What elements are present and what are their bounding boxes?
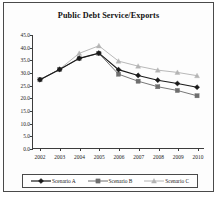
x-axis-tick-label: 2004 <box>74 154 85 160</box>
x-axis-tick <box>99 148 100 151</box>
plot-area: 0.05.010.015.020.025.030.035.040.045.020… <box>32 35 204 149</box>
x-axis-tick-label: 2008 <box>153 154 164 160</box>
y-axis-tick <box>30 73 33 74</box>
chart-legend: Scenario AScenario BScenario C <box>22 174 198 188</box>
y-axis-tick <box>30 136 33 137</box>
y-axis-tick-label: 20.0 <box>21 95 30 101</box>
y-axis-tick <box>30 48 33 49</box>
legend-marker-icon <box>88 177 108 185</box>
y-axis-tick-label: 15.0 <box>21 108 30 114</box>
x-axis-tick-label: 2002 <box>35 154 46 160</box>
data-point-scenario-b <box>156 85 160 89</box>
data-point-scenario-a <box>155 78 160 83</box>
legend-item-scenario-b[interactable]: Scenario B <box>88 177 133 185</box>
y-axis-tick-label: 0.0 <box>23 146 30 152</box>
x-axis-tick-label: 2010 <box>193 154 204 160</box>
x-axis-tick <box>119 148 120 151</box>
legend-item-scenario-c[interactable]: Scenario C <box>144 177 189 185</box>
data-point-scenario-a <box>136 73 141 78</box>
x-axis-tick <box>178 148 179 151</box>
y-axis-tick <box>30 98 33 99</box>
y-axis-tick-label: 5.0 <box>23 133 30 139</box>
y-axis-tick-label: 40.0 <box>21 45 30 51</box>
y-axis-tick-label: 25.0 <box>21 83 30 89</box>
x-axis-tick-label: 2009 <box>173 154 184 160</box>
y-axis-tick <box>30 60 33 61</box>
y-axis-tick <box>30 124 33 125</box>
chart-figure: Public Debt Service/Exports 0.05.010.015… <box>3 2 214 192</box>
chart-title: Public Debt Service/Exports <box>4 11 213 20</box>
legend-label: Scenario C <box>165 178 189 184</box>
data-point-scenario-b <box>116 72 120 76</box>
y-axis-tick-label: 30.0 <box>21 70 30 76</box>
x-axis-tick <box>40 148 41 151</box>
y-axis-tick-label: 45.0 <box>21 32 30 38</box>
y-axis-tick <box>30 149 33 150</box>
x-axis-tick <box>198 148 199 151</box>
data-point-scenario-b <box>136 79 140 83</box>
x-axis-tick-label: 2007 <box>133 154 144 160</box>
x-axis-tick <box>80 148 81 151</box>
y-axis-tick <box>30 35 33 36</box>
x-axis-tick-label: 2003 <box>54 154 65 160</box>
x-axis-tick <box>159 148 160 151</box>
x-axis-tick-label: 2006 <box>114 154 125 160</box>
x-axis-tick-label: 2005 <box>94 154 105 160</box>
y-axis-tick-label: 10.0 <box>21 121 30 127</box>
data-point-scenario-b <box>175 88 179 92</box>
legend-marker-icon <box>31 177 51 185</box>
x-axis-tick <box>60 148 61 151</box>
data-point-scenario-b <box>195 94 199 98</box>
data-point-scenario-a <box>194 85 199 90</box>
data-point-scenario-c <box>96 43 101 48</box>
legend-marker-icon <box>144 177 164 185</box>
y-axis-tick <box>30 86 33 87</box>
legend-label: Scenario A <box>52 178 76 184</box>
y-axis-tick-label: 35.0 <box>21 57 30 63</box>
plot-lines <box>33 35 204 148</box>
legend-item-scenario-a[interactable]: Scenario A <box>31 177 76 185</box>
legend-label: Scenario B <box>109 178 133 184</box>
x-axis-tick <box>139 148 140 151</box>
data-point-scenario-a <box>175 81 180 86</box>
y-axis-tick <box>30 111 33 112</box>
